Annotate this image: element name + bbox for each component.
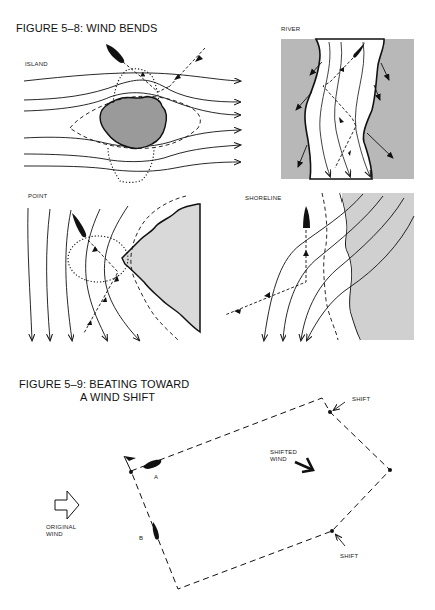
island-arrow-head — [195, 55, 203, 62]
shift-top-mark — [328, 410, 332, 414]
shoreline-wind-contour — [322, 193, 338, 340]
island-landmass — [100, 97, 167, 149]
island-boat — [106, 44, 124, 63]
shift-bottom-mark — [330, 529, 334, 533]
point-boat — [72, 213, 86, 237]
shift-top-arrow — [334, 402, 345, 410]
shoreline-panel — [225, 193, 414, 340]
point-panel — [28, 196, 200, 340]
point-boat-course — [84, 240, 118, 333]
shoreline-boat-course — [225, 230, 306, 315]
shoreline-land-background — [342, 193, 414, 340]
island-panel — [24, 44, 240, 182]
shoreline-boat — [303, 206, 310, 228]
shift-bottom-arrow — [336, 535, 345, 546]
original-wind-arrow-icon — [55, 491, 79, 519]
windward-mark — [388, 468, 392, 472]
point-dotted-lull — [68, 236, 128, 282]
figure-5-9-diagram — [55, 398, 392, 589]
island-dotted-lull-bottom — [108, 148, 154, 182]
boat-b — [153, 522, 159, 540]
course-boundary — [131, 398, 390, 589]
island-incoming-course — [168, 48, 205, 88]
island-boat-course — [123, 62, 170, 92]
river-panel — [281, 39, 414, 179]
boat-a — [143, 460, 161, 469]
point-landmass — [122, 204, 200, 332]
